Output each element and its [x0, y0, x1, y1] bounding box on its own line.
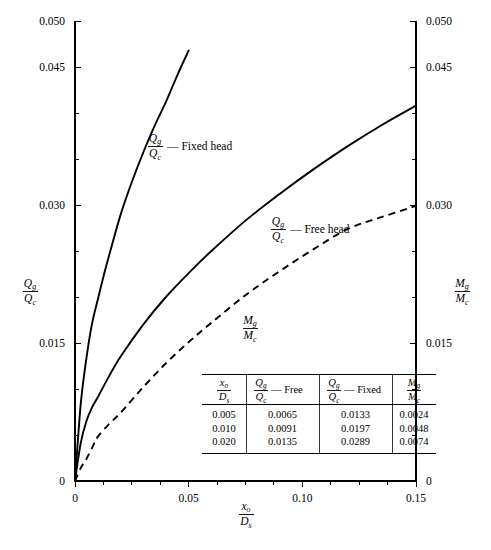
svg-text:Qg: Qg — [255, 377, 267, 391]
x-ticklabel: 0.10 — [292, 492, 312, 504]
y-ticklabel-right: 0.015 — [426, 337, 452, 349]
x-ticklabel: 0 — [72, 492, 78, 504]
table-cell: 0.0133 — [341, 409, 370, 420]
y-ticklabel-right: 0.030 — [426, 199, 452, 211]
svg-text:Ds: Ds — [239, 515, 251, 530]
table-cell: 0.0024 — [400, 409, 430, 420]
table-cell: 0.010 — [212, 423, 236, 434]
moment-label-fraction: MgMc — [242, 314, 257, 344]
table-header-fraction-3: MgMc — [407, 377, 421, 405]
svg-text:Qg: Qg — [24, 277, 36, 292]
free-head-label-text: — Free head — [289, 223, 350, 235]
table-cell: 0.0135 — [268, 436, 297, 447]
svg-text:Qc: Qc — [329, 391, 341, 405]
table-cell: 0.020 — [212, 436, 236, 447]
chart-figure: 000.0150.0150.0300.0300.0450.0450.0500.0… — [0, 0, 491, 550]
table-cell: 0.005 — [212, 409, 236, 420]
svg-text:Ds: Ds — [218, 391, 230, 405]
svg-text:Mg: Mg — [407, 377, 421, 391]
x-ticklabel: 0.15 — [406, 492, 426, 504]
free-head-label-fraction: QgQc — [271, 215, 286, 245]
svg-text:Qc: Qc — [256, 391, 268, 405]
y-ticklabel-left: 0.045 — [39, 61, 65, 73]
table-header-suffix-1: — Free — [270, 384, 303, 395]
table-cell: 0.0048 — [400, 423, 429, 434]
svg-text:Qg: Qg — [272, 215, 284, 230]
y-ticklabel-right: 0 — [426, 475, 432, 487]
svg-text:Qc: Qc — [149, 147, 161, 162]
svg-text:Mc: Mc — [407, 391, 421, 405]
svg-text:Qg: Qg — [328, 377, 340, 391]
curve-annotations: QgQc— Fixed headQgQc— Free headMgMc — [148, 132, 350, 344]
svg-text:Qg: Qg — [149, 132, 161, 147]
table-cell: 0.0289 — [341, 436, 370, 447]
table-header-suffix-2: — Fixed — [343, 384, 382, 395]
svg-text:Mc: Mc — [454, 292, 469, 307]
fixed-head-label-fraction: QgQc — [148, 132, 163, 162]
y-ticklabel-left: 0.050 — [39, 15, 65, 27]
left-axis-title: QgQc — [23, 277, 38, 307]
data-table: xoDsQgQc— FreeQgQc— FixedMgMc0.0050.0065… — [202, 374, 436, 453]
svg-text:Qc: Qc — [272, 230, 284, 245]
y-ticklabel-right: 0.050 — [426, 15, 452, 27]
svg-text:Mg: Mg — [242, 314, 257, 329]
curve-series-0 — [75, 50, 189, 481]
svg-text:Mc: Mc — [242, 329, 257, 344]
y-ticklabel-left: 0 — [59, 475, 65, 487]
table-cell: 0.0074 — [400, 436, 430, 447]
svg-text:xo: xo — [219, 377, 229, 391]
table-header-fraction-2: QgQc — [327, 377, 341, 405]
fixed-head-label-text: — Fixed head — [166, 140, 232, 152]
y-ticklabel-left: 0.030 — [39, 199, 65, 211]
svg-text:Mg: Mg — [454, 277, 469, 292]
x-ticklabel: 0.05 — [179, 492, 199, 504]
svg-text:xo: xo — [240, 500, 250, 515]
table-cell: 0.0065 — [268, 409, 297, 420]
y-ticklabel-right: 0.045 — [426, 61, 452, 73]
y-ticklabel-left: 0.015 — [39, 337, 65, 349]
bottom-axis-title: xoDs — [239, 500, 254, 530]
table-header-fraction-1: QgQc — [254, 377, 268, 405]
right-axis-title: MgMc — [454, 277, 469, 307]
svg-text:Qc: Qc — [24, 292, 36, 307]
table-cell: 0.0197 — [341, 423, 370, 434]
table-cell: 0.0091 — [268, 423, 297, 434]
table-header-fraction-0: xoDs — [217, 377, 231, 405]
